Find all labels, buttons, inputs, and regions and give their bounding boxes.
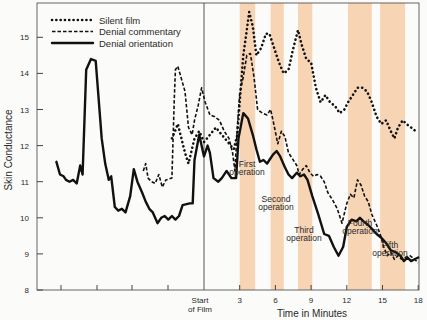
operation-band — [240, 3, 255, 290]
x-tick-label: 6 — [273, 296, 278, 305]
series-silent-film — [172, 12, 416, 164]
x-tick-label: of Film — [188, 305, 212, 314]
x-tick-label: 18 — [414, 296, 423, 305]
x-tick-label: 3 — [237, 296, 242, 305]
legend-label: Denial orientation — [99, 38, 173, 49]
y-tick-label: 10 — [20, 214, 29, 223]
operation-label: operation — [342, 226, 378, 236]
legend: Silent filmDenial commentaryDenial orien… — [52, 15, 181, 49]
y-axis-label: Skin Conductance — [3, 109, 14, 191]
skin-conductance-chart: 89101112131415Startof Film369121518 Firs… — [0, 0, 427, 320]
x-tick-label: 12 — [342, 296, 351, 305]
legend-label: Silent film — [99, 15, 140, 26]
operation-label: operation — [229, 167, 265, 177]
y-tick-label: 8 — [25, 286, 30, 295]
operation-band — [271, 3, 284, 290]
y-tick-label: 14 — [20, 69, 29, 78]
operation-band — [298, 3, 312, 290]
x-tick-label: Start — [192, 296, 210, 305]
x-axis-label: Time in Minutes — [277, 308, 347, 319]
operation-bands — [240, 3, 405, 290]
y-tick-label: 12 — [20, 142, 29, 151]
operation-label: operation — [286, 233, 322, 243]
legend-label: Denial commentary — [99, 26, 181, 37]
y-tick-label: 13 — [20, 106, 29, 115]
y-tick-label: 11 — [21, 178, 30, 187]
operation-label: operation — [258, 202, 294, 212]
operation-band — [348, 3, 372, 290]
operation-label: operation — [372, 248, 408, 258]
y-tick-label: 9 — [25, 250, 30, 259]
x-tick-label: 9 — [309, 296, 314, 305]
y-tick-label: 15 — [20, 33, 29, 42]
x-tick-label: 15 — [378, 296, 387, 305]
